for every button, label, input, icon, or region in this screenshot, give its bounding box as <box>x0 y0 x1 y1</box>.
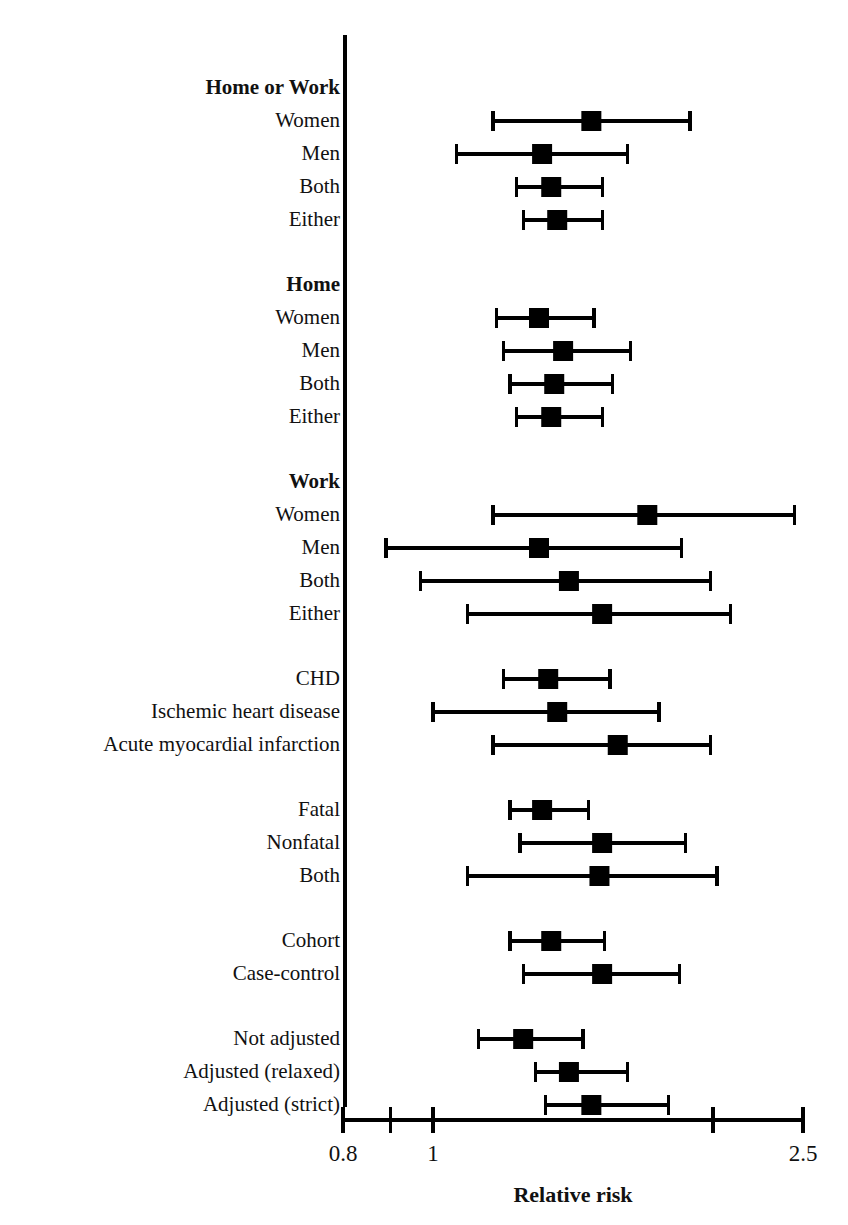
row-label-women: Women <box>275 504 340 525</box>
row-label-acute-myocardial-infarction: Acute myocardial infarction <box>103 734 340 755</box>
row-label-adjusted-strict: Adjusted (strict) <box>203 1094 340 1115</box>
row-label-men: Men <box>302 143 341 164</box>
row-label-either: Either <box>289 603 340 624</box>
forest-row-1-men <box>0 338 848 364</box>
row-label-women: Women <box>275 307 340 328</box>
forest-row-6-adjusted-relaxed <box>0 1059 848 1085</box>
forest-row-2-women <box>0 502 848 528</box>
row-label-men: Men <box>302 537 341 558</box>
row-label-either: Either <box>289 209 340 230</box>
x-tick-label-1: 1 <box>393 1142 473 1165</box>
row-label-not-adjusted: Not adjusted <box>233 1028 340 1049</box>
row-label-both: Both <box>299 570 340 591</box>
forest-row-4-both <box>0 863 848 889</box>
row-label-fatal: Fatal <box>298 799 340 820</box>
row-label-both: Both <box>299 176 340 197</box>
forest-row-1-either <box>0 404 848 430</box>
x-axis-title: Relative risk <box>423 1182 723 1208</box>
x-tick-label-2-5: 2.5 <box>763 1142 843 1165</box>
row-label-cohort: Cohort <box>282 930 340 951</box>
forest-row-0-men <box>0 141 848 167</box>
row-label-both: Both <box>299 865 340 886</box>
forest-row-5-case-control <box>0 961 848 987</box>
row-label-adjusted-relaxed: Adjusted (relaxed) <box>183 1061 340 1082</box>
group-header-work: Work <box>289 471 340 492</box>
row-label-ischemic-heart-disease: Ischemic heart disease <box>151 701 340 722</box>
forest-row-3-chd <box>0 666 848 692</box>
row-label-women: Women <box>275 110 340 131</box>
forest-row-1-women <box>0 305 848 331</box>
forest-plot: Home or WorkWomenMenBothEitherHomeWomenM… <box>0 0 848 1225</box>
row-label-either: Either <box>289 406 340 427</box>
x-tick-label-0-8: 0.8 <box>303 1142 383 1165</box>
row-label-both: Both <box>299 373 340 394</box>
forest-row-0-either <box>0 207 848 233</box>
forest-row-2-both <box>0 568 848 594</box>
forest-row-4-nonfatal <box>0 830 848 856</box>
row-label-chd: CHD <box>296 668 340 689</box>
forest-row-0-both <box>0 174 848 200</box>
forest-row-3-ischemic-heart-disease <box>0 699 848 725</box>
group-header-home-or-work: Home or Work <box>205 77 340 98</box>
forest-row-1-both <box>0 371 848 397</box>
row-label-men: Men <box>302 340 341 361</box>
forest-row-4-fatal <box>0 797 848 823</box>
row-label-case-control: Case-control <box>233 963 340 984</box>
forest-row-5-cohort <box>0 928 848 954</box>
forest-row-0-women <box>0 108 848 134</box>
row-label-nonfatal: Nonfatal <box>267 832 340 853</box>
forest-row-6-adjusted-strict <box>0 1092 848 1118</box>
forest-row-6-not-adjusted <box>0 1026 848 1052</box>
forest-row-2-either <box>0 601 848 627</box>
group-header-home: Home <box>286 274 340 295</box>
forest-row-2-men <box>0 535 848 561</box>
